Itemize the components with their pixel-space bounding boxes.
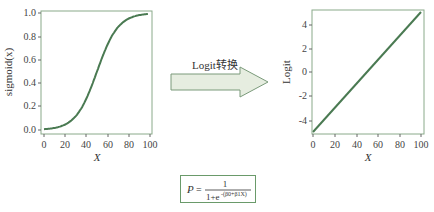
- y-tick: 0.0: [24, 124, 37, 135]
- formula-equals: =: [196, 184, 202, 195]
- y-tick: -4: [299, 115, 307, 126]
- y-tick: 0.8: [24, 31, 37, 42]
- x-tick: 80: [395, 139, 405, 150]
- sigmoid-curve: [44, 14, 148, 129]
- sigmoid-x-axis: 0 20 40 60 80 100 X: [42, 134, 158, 163]
- y-tick: 4: [302, 19, 307, 30]
- formula-exponent: -(β0+β1X): [221, 191, 247, 198]
- x-tick: 100: [414, 139, 429, 150]
- x-tick: 20: [330, 139, 340, 150]
- y-tick: 0: [302, 66, 307, 77]
- x-tick: 0: [42, 139, 47, 150]
- formula-numerator: 1: [223, 179, 228, 189]
- logit-y-axis: -4 -2 0 2 4 Logit: [280, 19, 312, 126]
- logit-line: [313, 12, 421, 132]
- arrow-label: Logit转换: [192, 56, 238, 72]
- sigmoid-y-label: sigmoid(x): [2, 48, 15, 97]
- logit-y-label: Logit: [280, 60, 292, 84]
- y-tick: 0.2: [24, 100, 37, 111]
- y-tick: 1.0: [24, 7, 37, 18]
- y-tick: 2: [302, 43, 307, 54]
- x-tick: 60: [373, 139, 383, 150]
- formula-lhs: P: [186, 183, 194, 195]
- y-tick: -2: [299, 90, 307, 101]
- x-tick: 0: [311, 139, 316, 150]
- sigmoid-y-axis: 0.0 0.2 0.4 0.6 0.8 1.0 sigmoid(x): [2, 7, 41, 135]
- sigmoid-chart: 0.0 0.2 0.4 0.6 0.8 1.0 sigmoid(x) 0 20 …: [2, 7, 158, 163]
- sigmoid-x-label: X: [93, 151, 102, 163]
- logistic-formula: P = 1 1+e -(β0+β1X): [180, 175, 256, 203]
- logit-x-axis: 0 20 40 60 80 100 X: [311, 134, 429, 163]
- x-tick: 20: [60, 139, 70, 150]
- x-tick: 80: [124, 139, 134, 150]
- x-tick: 40: [352, 139, 362, 150]
- formula-denominator: 1+e: [206, 192, 220, 202]
- logit-chart: -4 -2 0 2 4 Logit 0 20 40 60 80 100 X: [280, 10, 429, 163]
- y-tick: 0.4: [24, 77, 37, 88]
- x-tick: 40: [81, 139, 91, 150]
- x-tick: 60: [103, 139, 113, 150]
- logit-x-label: X: [364, 151, 373, 163]
- x-tick: 100: [143, 139, 158, 150]
- y-tick: 0.6: [24, 54, 37, 65]
